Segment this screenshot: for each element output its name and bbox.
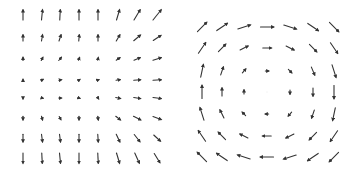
vector-arrow <box>284 25 296 29</box>
vector-arrow <box>309 132 316 139</box>
vector-arrow <box>42 10 43 20</box>
vector-arrow <box>197 22 206 31</box>
vector-arrow <box>153 36 161 41</box>
vector-arrow <box>59 117 61 120</box>
vector-arrow <box>197 152 206 161</box>
vector-arrow <box>286 46 294 50</box>
vector-arrow <box>311 67 314 75</box>
vector-arrow <box>308 153 318 160</box>
vector-arrow <box>288 112 291 116</box>
vector-arrow <box>330 131 337 141</box>
vector-arrow <box>198 43 205 53</box>
vector-arrow <box>117 10 120 20</box>
vector-arrow <box>329 22 338 31</box>
vector-arrow <box>116 80 120 81</box>
vector-arrow <box>79 35 80 41</box>
vector-arrow <box>218 132 225 139</box>
vector-arrow <box>135 153 140 163</box>
vector-arrow <box>267 92 268 93</box>
vector-arrow <box>200 108 204 120</box>
vector-arrow <box>221 67 224 75</box>
vector-arrow <box>134 58 140 61</box>
vector-arrow <box>116 116 121 120</box>
vector-arrow <box>59 58 62 61</box>
vector-arrow <box>41 58 43 61</box>
figure <box>0 0 364 171</box>
vector-arrow <box>60 134 61 142</box>
vector-arrow <box>134 10 140 20</box>
vector-arrow <box>98 134 99 142</box>
vector-arrow <box>330 43 337 53</box>
vector-arrow <box>240 46 248 50</box>
quiver-plot-saddle-field <box>23 10 161 163</box>
vector-arrow <box>78 80 80 81</box>
vector-arrow <box>308 23 318 30</box>
vector-arrow <box>242 69 245 73</box>
vector-arrow <box>41 98 43 99</box>
vector-arrow <box>134 80 141 81</box>
vector-arrow <box>60 10 61 20</box>
vector-arrow <box>42 153 43 163</box>
vector-arrow <box>79 58 80 61</box>
vector-arrow <box>154 154 160 163</box>
vector-arrow <box>98 97 99 99</box>
vector-arrow <box>240 134 248 138</box>
vector-arrow <box>41 80 43 81</box>
vector-arrow <box>59 80 62 81</box>
vector-arrow <box>98 116 99 120</box>
vector-arrow <box>42 116 43 120</box>
vector-arrow <box>116 134 120 142</box>
vector-arrow <box>218 44 225 51</box>
vector-arrow <box>201 65 204 77</box>
vector-arrow <box>116 35 120 41</box>
vector-arrow <box>153 117 161 120</box>
vector-arrow <box>60 153 61 163</box>
vector-arrow <box>309 44 316 51</box>
vector-arrow <box>97 80 99 81</box>
vector-arrow <box>288 69 291 72</box>
vector-arrow <box>116 98 121 99</box>
vector-arrow <box>284 155 296 159</box>
vector-arrow <box>42 35 43 41</box>
vector-arrow <box>98 153 99 163</box>
vector-arrow <box>98 58 99 61</box>
vector-arrow <box>198 131 205 141</box>
vector-arrow <box>116 58 120 61</box>
vector-arrow <box>78 98 80 99</box>
vector-arrow <box>59 35 61 41</box>
vector-arrow <box>238 25 250 29</box>
vector-arrow <box>117 153 120 163</box>
vector-arrow <box>42 134 43 142</box>
vector-arrow <box>217 23 227 30</box>
vector-arrow <box>134 135 140 142</box>
vector-arrow <box>329 152 338 161</box>
vector-arrow <box>333 108 336 120</box>
vector-arrow <box>153 10 161 20</box>
vector-arrow <box>154 135 161 141</box>
vector-arrow <box>134 116 141 120</box>
vector-arrow <box>312 110 315 118</box>
vector-arrow <box>220 110 224 118</box>
vector-arrow <box>242 112 245 115</box>
vector-arrow <box>238 155 250 159</box>
vector-arrow <box>134 98 141 99</box>
vector-arrow <box>217 153 227 160</box>
vector-arrow <box>153 80 161 81</box>
quiver-plot-vortex-field <box>197 22 338 161</box>
vector-arrow <box>153 58 161 61</box>
vector-arrow <box>153 98 161 99</box>
vector-arrow <box>332 65 336 77</box>
vector-arrow <box>134 35 141 41</box>
vector-arrow <box>286 134 294 138</box>
